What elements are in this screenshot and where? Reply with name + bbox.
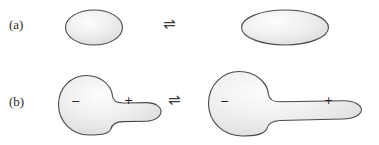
equilibrium-arrow-b: ⇌ [168, 93, 181, 108]
shape-a-right-ellipse [240, 6, 335, 50]
charge-label-negative-left: − [71, 96, 80, 107]
charge-label-positive-right: + [324, 95, 333, 106]
figure-canvas: (a) ⇌ (b) ⇌ − + − + [0, 0, 379, 145]
charge-label-negative-right: − [220, 96, 229, 107]
shape-a-left-ellipse [64, 6, 130, 50]
equilibrium-arrow-a: ⇌ [163, 17, 176, 32]
charge-label-positive-left: + [124, 95, 133, 106]
panel-label-a: (a) [9, 18, 23, 31]
panel-label-b: (b) [9, 95, 24, 108]
